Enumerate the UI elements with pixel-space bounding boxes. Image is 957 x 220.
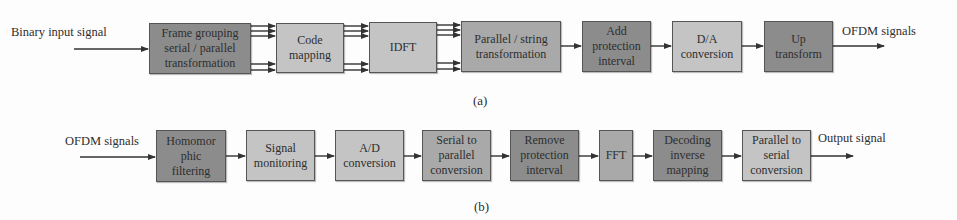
add-protection-interval-block: Add protection interval [582, 21, 651, 72]
ad-conversion-block: A/D conversion [335, 130, 404, 181]
frame-grouping-block: Frame grouping serial / parallel transfo… [149, 23, 251, 74]
binary-input-signal-label: Binary input signal [11, 25, 107, 40]
output-signal-label: Output signal [818, 131, 886, 146]
ofdm-signals-input-label: OFDM signals [65, 134, 139, 149]
ofdm-block-diagram: Binary input signal Frame grouping seria… [0, 0, 957, 220]
parallel-string-block: Parallel / string transformation [461, 21, 561, 72]
signal-monitoring-block: Signal monitoring [246, 130, 315, 181]
caption-a: (a) [473, 93, 487, 109]
code-mapping-block: Code mapping [276, 23, 344, 73]
ofdm-signals-output-label: OFDM signals [842, 24, 916, 39]
remove-protection-interval-block: Remove protection interval [510, 130, 579, 181]
up-transform-block: Up transform [764, 21, 833, 72]
parallel-to-serial-block: Parallel to serial conversion [742, 130, 811, 181]
decoding-inverse-mapping-block: Decoding inverse mapping [653, 130, 722, 181]
fft-block: FFT [599, 130, 633, 181]
caption-b: (b) [474, 199, 489, 215]
idft-block: IDFT [369, 22, 437, 73]
homomorphic-filtering-block: Homomor phic filtering [156, 130, 226, 182]
da-conversion-block: D/A conversion [672, 21, 742, 72]
serial-to-parallel-block: Serial to parallel conversion [422, 130, 491, 181]
